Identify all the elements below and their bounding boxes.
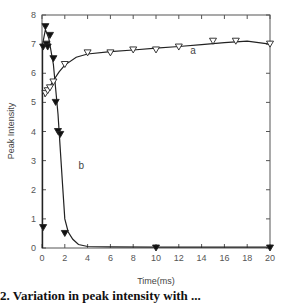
x-tick-label: 12: [174, 253, 184, 263]
x-axis-title: Time(ms): [137, 276, 175, 286]
series-labels: ab: [78, 45, 196, 171]
series-label-a: a: [190, 45, 196, 56]
x-tick-label: 6: [108, 253, 113, 263]
filled-triangle-marker: [61, 230, 68, 236]
y-tick-label: 2: [31, 185, 36, 195]
filled-triangle-marker: [40, 225, 47, 231]
series-label-b: b: [78, 160, 84, 171]
y-tick-label: 0: [31, 243, 36, 253]
y-tick-label: 4: [31, 127, 36, 137]
filled-triangle-marker: [50, 56, 57, 62]
filled-triangle-marker: [42, 24, 49, 30]
fit-curves: [43, 30, 270, 248]
y-tick-label: 8: [31, 10, 36, 20]
y-axis-title: Peak Intensity: [6, 102, 16, 159]
fit-curve-b: [43, 30, 270, 248]
x-tick-label: 4: [85, 253, 90, 263]
y-tick-label: 5: [31, 97, 36, 107]
x-axis-ticks: 02468101214161820: [39, 15, 275, 263]
y-axis-ticks: 012345678: [31, 10, 270, 253]
filled-triangle-marker: [52, 99, 59, 105]
x-tick-label: 2: [62, 253, 67, 263]
open-triangle-marker: [153, 47, 160, 53]
y-tick-label: 6: [31, 68, 36, 78]
y-tick-label: 1: [31, 214, 36, 224]
y-tick-label: 3: [31, 156, 36, 166]
x-tick-label: 18: [242, 253, 252, 263]
x-tick-label: 20: [265, 253, 275, 263]
figure-caption: 2. Variation in peak intensity with ...: [0, 288, 201, 304]
x-tick-label: 10: [151, 253, 161, 263]
open-triangle-marker: [107, 50, 114, 56]
x-tick-label: 0: [39, 253, 44, 263]
y-tick-label: 7: [31, 39, 36, 49]
open-triangle-marker: [61, 62, 68, 68]
x-tick-label: 14: [197, 253, 207, 263]
x-tick-label: 16: [219, 253, 229, 263]
x-tick-label: 8: [131, 253, 136, 263]
